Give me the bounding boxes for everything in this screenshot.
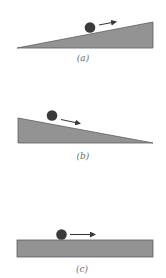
physics-diagram: (a) (b) (c) — [0, 0, 166, 278]
panel-b: (b) — [18, 110, 153, 161]
incline-down-surface — [18, 118, 153, 143]
velocity-arrow-icon — [61, 120, 80, 124]
ball — [47, 110, 58, 121]
ball — [85, 22, 96, 33]
panel-label-b: (b) — [77, 151, 90, 161]
ball — [56, 229, 67, 240]
velocity-arrow-icon — [99, 22, 116, 25]
panel-label-c: (c) — [76, 264, 89, 274]
flat-surface — [17, 240, 153, 257]
panel-a: (a) — [17, 22, 153, 63]
panel-label-a: (a) — [77, 53, 90, 63]
panel-c: (c) — [17, 229, 153, 274]
